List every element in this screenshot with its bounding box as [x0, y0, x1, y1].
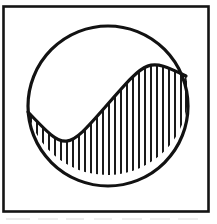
- figure-root: Yin-yang style circle divided by an S-cu…: [0, 0, 217, 224]
- figure-svg: Yin-yang style circle divided by an S-cu…: [0, 0, 217, 224]
